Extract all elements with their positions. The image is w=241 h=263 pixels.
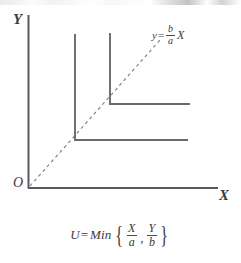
utility-close-brace: } (161, 225, 169, 246)
figure-canvas: Y X O y = b a X U = Min { X a , Y b } (0, 0, 241, 263)
utility-term-two-numerator: Y (147, 222, 158, 235)
utility-comma: , (140, 230, 143, 248)
ray-equation-equals: = (158, 29, 164, 41)
utility-term-one-fraction: X a (126, 222, 137, 248)
utility-term-two-denominator: b (147, 235, 157, 249)
ray-slope-denominator: a (166, 35, 175, 47)
utility-equals: = (81, 227, 88, 243)
origin-label: O (13, 176, 23, 190)
utility-term-one-denominator: a (127, 235, 137, 249)
utility-term-one-numerator: X (126, 222, 137, 235)
y-axis-label: Y (13, 12, 22, 27)
ray-slope-fraction: b a (166, 24, 175, 46)
utility-function-caption: U = Min { X a , Y b } (0, 222, 241, 248)
ray-equation-lhs: y (152, 29, 157, 41)
inner-indifference-curve (75, 34, 188, 140)
ray-equation-variable: X (177, 28, 184, 43)
ray-equation-label: y = b a X (152, 24, 184, 46)
utility-function-name: Min (90, 227, 112, 243)
utility-open-brace: { (115, 225, 123, 246)
utility-function-expression: U = Min { X a , Y b } (70, 222, 171, 248)
ray-slope-numerator: b (166, 24, 175, 35)
utility-lhs: U (70, 227, 79, 243)
expansion-ray-dashed-line (30, 40, 160, 186)
x-axis-label: X (219, 188, 229, 203)
utility-term-two-fraction: Y b (147, 222, 158, 248)
